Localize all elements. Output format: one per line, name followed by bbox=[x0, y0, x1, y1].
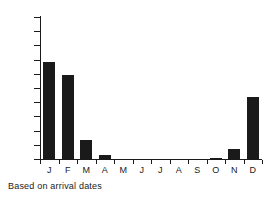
x-axis-tick-mark bbox=[170, 160, 171, 164]
bar-chart-figure: 020406080100120140160180200 JFMAMJJASOND… bbox=[0, 0, 273, 199]
x-axis-tick-label: A bbox=[172, 165, 186, 176]
x-axis-tick-mark bbox=[188, 160, 189, 164]
x-axis-tick-mark bbox=[151, 160, 152, 164]
x-axis-tick-mark bbox=[77, 160, 78, 164]
x-axis-tick-mark bbox=[225, 160, 226, 164]
bar-march bbox=[80, 140, 92, 159]
x-axis-tick-label: S bbox=[190, 165, 204, 176]
x-axis-tick-mark bbox=[207, 160, 208, 164]
x-axis-tick-mark bbox=[244, 160, 245, 164]
x-axis-tick-mark bbox=[262, 160, 263, 164]
x-axis-tick-label: J bbox=[153, 165, 167, 176]
x-axis-tick-mark bbox=[59, 160, 60, 164]
bar-january bbox=[43, 62, 55, 159]
bar-october bbox=[210, 158, 222, 159]
plot-area bbox=[40, 17, 262, 159]
x-axis-tick-label: J bbox=[135, 165, 149, 176]
x-axis-tick-mark bbox=[114, 160, 115, 164]
x-axis-tick-label: M bbox=[116, 165, 130, 176]
x-axis-tick-label: M bbox=[79, 165, 93, 176]
x-axis-tick-mark bbox=[96, 160, 97, 164]
bar-november bbox=[228, 149, 240, 159]
x-axis-tick-label: O bbox=[209, 165, 223, 176]
x-axis-tick-label: D bbox=[246, 165, 260, 176]
bar-december bbox=[247, 97, 259, 159]
x-axis-tick-mark bbox=[40, 160, 41, 164]
bar-april bbox=[99, 155, 111, 159]
chart-caption: Based on arrival dates bbox=[8, 181, 102, 192]
x-axis-tick-label: F bbox=[61, 165, 75, 176]
x-axis-tick-label: J bbox=[42, 165, 56, 176]
bar-february bbox=[62, 75, 74, 159]
x-axis-tick-label: A bbox=[98, 165, 112, 176]
x-axis-tick-mark bbox=[133, 160, 134, 164]
x-axis-tick-label: N bbox=[227, 165, 241, 176]
